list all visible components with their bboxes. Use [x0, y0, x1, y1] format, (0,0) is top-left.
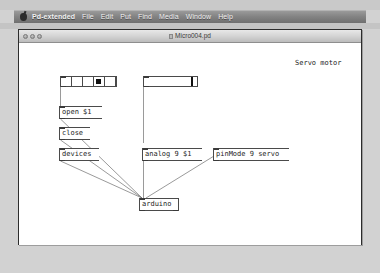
menu-item-file[interactable]: File: [82, 13, 94, 21]
window-controls: [23, 34, 42, 39]
hradio-cell-3[interactable]: [94, 77, 105, 86]
message-pinmode-label: pinMode 9 servo: [216, 150, 279, 159]
comment-servo-motor: Servo motor: [295, 59, 341, 68]
hslider-inlet: [144, 76, 149, 78]
window-titlebar[interactable]: Micro004.pd: [19, 30, 361, 43]
message-devices-inlet: [60, 148, 65, 150]
message-open-inlet: [60, 106, 65, 108]
arduino-outlet-left: [140, 210, 145, 212]
window-title-text: Micro004.pd: [175, 32, 211, 39]
message-box-close[interactable]: close: [59, 127, 90, 140]
patch-canvas[interactable]: Servo motor open $1: [19, 43, 361, 245]
hradio-cell-1[interactable]: [72, 77, 83, 86]
hslider-knob[interactable]: [191, 77, 193, 86]
hslider-outlet: [144, 86, 149, 88]
window-title: Micro004.pd: [19, 32, 361, 40]
apple-icon[interactable]: [20, 13, 27, 21]
message-box-devices[interactable]: devices: [59, 148, 99, 161]
hradio-cell-2[interactable]: [83, 77, 94, 86]
document-icon: [169, 34, 173, 39]
object-arduino-label: arduino: [142, 200, 172, 209]
menu-item-put[interactable]: Put: [120, 13, 131, 21]
message-close-outlet: [60, 139, 65, 141]
menu-item-edit[interactable]: Edit: [101, 13, 113, 21]
menu-item-window[interactable]: Window: [186, 13, 212, 21]
message-pinmode-inlet: [214, 148, 219, 150]
minimize-button[interactable]: [30, 34, 35, 39]
hradio-widget[interactable]: [60, 76, 117, 87]
menu-item-media[interactable]: Media: [159, 13, 179, 21]
menu-item-pd-extended[interactable]: Pd-extended: [32, 13, 75, 21]
menu-item-help[interactable]: Help: [218, 13, 233, 21]
hradio-cell-4[interactable]: [105, 77, 116, 86]
arduino-outlet-right: [173, 210, 178, 212]
menu-bar: Pd-extended File Edit Put Find Media Win…: [14, 10, 366, 23]
patch-cords: [19, 43, 361, 245]
message-close-label: close: [62, 129, 83, 138]
message-box-open[interactable]: open $1: [59, 106, 102, 119]
message-close-inlet: [60, 127, 65, 129]
screen: Pd-extended File Edit Put Find Media Win…: [0, 0, 380, 273]
message-analog-outlet: [143, 160, 148, 162]
patch-window: Micro004.pd: [18, 29, 362, 245]
message-open-outlet: [60, 118, 65, 120]
hslider-widget[interactable]: [143, 76, 198, 87]
close-button[interactable]: [23, 34, 28, 39]
message-devices-label: devices: [62, 150, 92, 159]
message-analog-label: analog 9 $1: [145, 150, 191, 159]
hradio-outlet: [61, 86, 66, 88]
message-devices-outlet: [60, 160, 65, 162]
message-pinmode-outlet: [214, 160, 219, 162]
menu-item-find[interactable]: Find: [138, 13, 152, 21]
object-box-arduino[interactable]: arduino: [139, 198, 179, 211]
message-analog-inlet: [143, 148, 148, 150]
message-open-label: open $1: [62, 108, 92, 117]
arduino-inlet: [140, 198, 145, 200]
desktop-top-strip: [0, 0, 380, 10]
message-box-pinmode[interactable]: pinMode 9 servo: [213, 148, 289, 161]
message-box-analog[interactable]: analog 9 $1: [142, 148, 202, 161]
zoom-button[interactable]: [37, 34, 42, 39]
hradio-inlet: [61, 76, 66, 78]
